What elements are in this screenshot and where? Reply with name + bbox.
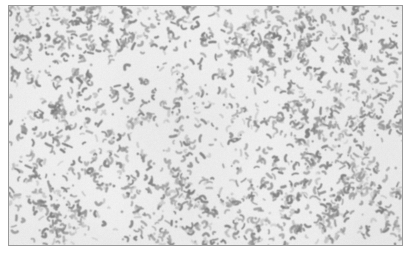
photomicrograph-plate bbox=[8, 5, 403, 246]
page-canvas bbox=[0, 0, 411, 254]
micrograph-field bbox=[9, 6, 402, 245]
